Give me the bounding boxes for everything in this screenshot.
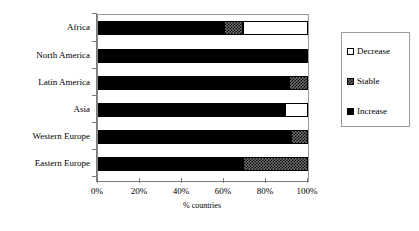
- x-axis-tick: [181, 178, 182, 183]
- y-axis-tick: [92, 122, 97, 123]
- y-axis-tick: [92, 95, 97, 96]
- legend-item-increase: Increase: [347, 106, 387, 116]
- x-axis-tick: [223, 178, 224, 183]
- legend-item-stable: Stable: [347, 76, 380, 86]
- legend: Decrease Stable Increase: [341, 32, 410, 127]
- bar-segment-increase: [98, 76, 289, 90]
- legend-swatch-decrease-icon: [347, 48, 354, 55]
- x-axis-tick-label: 100%: [297, 186, 318, 197]
- bar-segment-stable: [243, 157, 308, 171]
- y-axis-tick: [92, 149, 97, 150]
- x-axis-tick: [307, 178, 308, 183]
- bar-segment-decrease: [285, 103, 308, 117]
- y-axis-tick: [92, 13, 97, 14]
- legend-label: Decrease: [357, 46, 390, 56]
- bar-segment-stable: [224, 21, 243, 35]
- x-axis-tick: [97, 178, 98, 183]
- x-axis-tick: [139, 178, 140, 183]
- table-row: [98, 130, 308, 144]
- y-axis-tick-label: Asia: [2, 104, 90, 114]
- bar-segment-increase: [98, 157, 243, 171]
- legend-item-decrease: Decrease: [347, 46, 390, 56]
- table-row: [98, 49, 308, 63]
- bar-segment-decrease: [243, 21, 308, 35]
- stacked-bar-chart: Africa North America Latin America Asia …: [0, 0, 419, 231]
- plot-area: [97, 14, 309, 182]
- legend-label: Stable: [357, 76, 380, 86]
- x-axis-tick: [265, 178, 266, 183]
- table-row: [98, 21, 308, 35]
- y-axis-labels: Africa North America Latin America Asia …: [0, 0, 90, 231]
- y-axis-tick: [92, 68, 97, 69]
- x-axis-tick-label: 0%: [91, 186, 103, 197]
- y-axis-tick-label: North America: [2, 50, 90, 60]
- x-axis-tick-label: 60%: [215, 186, 232, 197]
- bar-segment-increase: [98, 103, 285, 117]
- table-row: [98, 157, 308, 171]
- table-row: [98, 76, 308, 90]
- x-axis-title: % countries: [97, 201, 307, 211]
- x-axis-line: [96, 181, 308, 182]
- bar-segment-stable: [291, 130, 308, 144]
- x-axis-tick-label: 80%: [257, 186, 274, 197]
- x-axis-tick-label: 40%: [173, 186, 190, 197]
- legend-label: Increase: [357, 106, 387, 116]
- y-axis-tick: [92, 41, 97, 42]
- y-axis-line: [96, 13, 97, 181]
- bar-segment-increase: [98, 49, 308, 63]
- table-row: [98, 103, 308, 117]
- legend-swatch-increase-icon: [347, 108, 354, 115]
- x-axis-tick-label: 20%: [131, 186, 148, 197]
- legend-swatch-stable-icon: [347, 78, 354, 85]
- bar-segment-stable: [289, 76, 308, 90]
- y-axis-tick-label: Eastern Europe: [2, 158, 90, 168]
- y-axis-tick-label: Africa: [2, 22, 90, 32]
- y-axis-tick-label: Western Europe: [2, 131, 90, 141]
- y-axis-tick: [92, 176, 97, 177]
- bar-segment-increase: [98, 21, 224, 35]
- bar-segment-increase: [98, 130, 291, 144]
- y-axis-tick-label: Latin America: [2, 77, 90, 87]
